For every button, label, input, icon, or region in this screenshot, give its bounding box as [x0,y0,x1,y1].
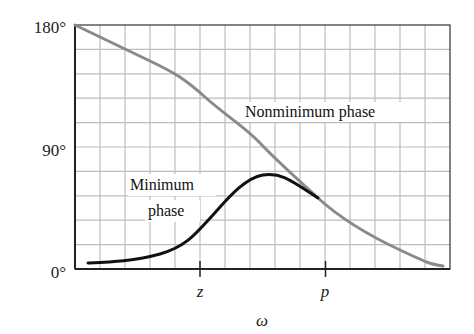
x-axis-label: ω [256,311,268,330]
nonminimum-phase-curve [75,25,443,266]
phase-chart: 180° 90° 0° z p ω Nonminimum phase Minim… [0,0,474,334]
x-tick-z: z [196,282,204,301]
y-label-180: 180° [34,18,66,37]
x-tick-p: p [320,282,330,301]
minimum-phase-label-line2: phase [148,202,184,220]
y-label-0: 0° [51,263,66,282]
nonminimum-phase-label: Nonminimum phase [245,103,375,121]
minimum-phase-label-line1: Minimum [130,176,195,193]
y-label-90: 90° [42,141,66,160]
